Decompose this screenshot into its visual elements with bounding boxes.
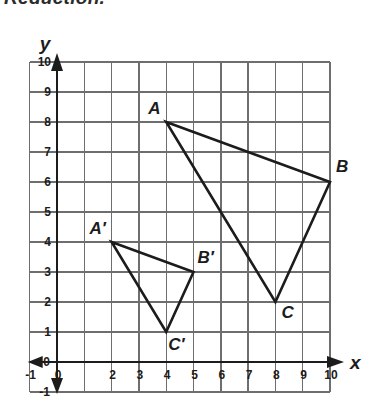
x-tick-label: 0 [55, 368, 62, 382]
y-tick-label: 2 [44, 295, 51, 309]
x-tick-label: 3 [137, 368, 144, 382]
x-tick-label: 4 [164, 368, 171, 382]
x-tick-label: 8 [273, 368, 280, 382]
x-tick-label: 9 [300, 368, 307, 382]
axis-letters: xy [39, 33, 362, 373]
graph-svg: -102345678910-1012345678910 ABCA′B′C′ xy [0, 0, 370, 401]
y-tick-label: 6 [44, 175, 51, 189]
x-axis-label: x [349, 352, 362, 373]
y-tick-label: 3 [44, 265, 51, 279]
x-tick-label: 6 [218, 368, 225, 382]
y-tick-label: 5 [44, 205, 51, 219]
vertex-label: A′ [89, 219, 107, 238]
vertex-label: B [336, 157, 348, 176]
y-axis-label: y [39, 33, 52, 54]
axis-lines [28, 53, 344, 394]
x-tick-label: 5 [191, 368, 198, 382]
y-tick-label: 0 [43, 355, 50, 369]
x-axis-arrow-right [327, 356, 344, 368]
y-tick-label: 8 [44, 115, 51, 129]
y-tick-label: 4 [44, 235, 51, 249]
y-tick-label: 1 [44, 325, 51, 339]
y-tick-label: 10 [38, 55, 52, 69]
y-tick-label: 9 [44, 85, 51, 99]
vertex-label: B′ [198, 248, 215, 267]
triangle-a-prime-b-prime-c-prime [112, 242, 194, 332]
y-tick-label: 7 [44, 145, 51, 159]
x-tick-label: -1 [25, 368, 36, 382]
coordinate-plane: -102345678910-1012345678910 ABCA′B′C′ xy [0, 0, 370, 401]
vertex-label: C′ [168, 335, 185, 354]
x-tick-label: 7 [246, 368, 253, 382]
x-tick-label: 2 [109, 368, 116, 382]
x-tick-label: 10 [324, 368, 338, 382]
worksheet-page: Reduction. -102345678910-1012345678910 A… [0, 0, 370, 401]
vertex-label: A [147, 99, 160, 118]
vertex-label: C [281, 303, 294, 322]
y-tick-label: -1 [39, 385, 50, 399]
